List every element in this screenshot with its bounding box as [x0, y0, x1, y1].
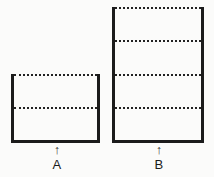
- up-arrow-icon: ↑: [156, 144, 162, 158]
- stack-unit: [115, 107, 201, 140]
- stack-b-pointer: ↑ B: [147, 144, 171, 172]
- stack-unit: [115, 7, 201, 40]
- two-stacks-diagram: ↑ A ↑ B: [0, 0, 214, 177]
- stack-unit: [14, 74, 97, 107]
- stack-b: [112, 7, 204, 143]
- stack-b-label: B: [154, 157, 163, 172]
- stack-a-label: A: [52, 157, 61, 172]
- stack-a: [11, 74, 100, 143]
- stack-unit: [115, 40, 201, 73]
- stack-a-pointer: ↑ A: [45, 144, 69, 172]
- up-arrow-icon: ↑: [54, 144, 60, 158]
- stack-unit: [14, 107, 97, 140]
- stack-unit: [115, 74, 201, 107]
